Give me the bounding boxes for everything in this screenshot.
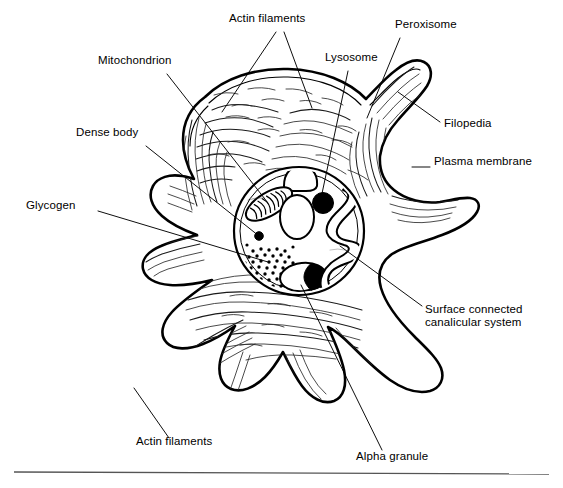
- leader-line-actin-filaments-bottom: [134, 388, 169, 438]
- label-alpha-granule: Alpha granule: [356, 450, 428, 463]
- label-actin-filaments-bottom: Actin filaments: [136, 435, 212, 448]
- label-actin-filaments-top: Actin filaments: [229, 12, 305, 25]
- platelet-diagram-figure: Actin filaments Peroxisome Mitochondrion…: [0, 0, 563, 488]
- label-filopedia: Filopedia: [444, 117, 492, 130]
- label-lysosome: Lysosome: [325, 51, 378, 64]
- label-peroxisome: Peroxisome: [395, 18, 457, 31]
- label-surface-connected-canalicular-system: Surface connected canalicular system: [425, 303, 523, 329]
- label-mitochondrion: Mitochondrion: [98, 54, 172, 67]
- label-dense-body: Dense body: [76, 126, 138, 139]
- label-plasma-membrane: Plasma membrane: [434, 155, 532, 168]
- diagram-canvas: [0, 0, 563, 488]
- lysosome: [313, 193, 334, 214]
- label-glycogen: Glycogen: [26, 199, 75, 212]
- central-vacuole: [280, 195, 314, 239]
- bottom-rule: [14, 472, 549, 474]
